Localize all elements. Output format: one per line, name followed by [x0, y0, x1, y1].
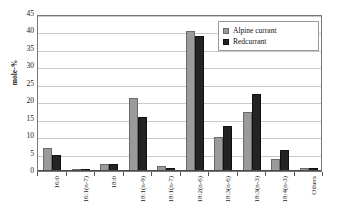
x-axis-tick	[322, 172, 323, 176]
bar	[243, 112, 252, 171]
bar	[223, 126, 232, 171]
bar	[43, 148, 52, 171]
legend: Alpine currant Redcurrant	[218, 21, 319, 51]
y-axis-tick-label: 15	[27, 115, 35, 123]
bar-group	[181, 16, 210, 171]
y-axis-tick-label: 10	[27, 132, 35, 140]
y-axis-tick-label: 0	[30, 167, 34, 175]
x-axis-category-label: 18:1(n-7)	[168, 176, 175, 202]
bar	[280, 150, 289, 171]
legend-swatch-icon	[223, 39, 229, 45]
bar	[129, 98, 138, 171]
x-axis-category-labels: 16:016:1(n-7)18:018:1(n-9)18:1(n-7)18:2(…	[37, 176, 322, 218]
bar	[186, 31, 195, 171]
bar-group	[124, 16, 153, 171]
x-axis-line	[38, 170, 321, 171]
legend-swatch-icon	[223, 28, 229, 34]
x-axis-category-label: 18:4(n-3)	[282, 176, 289, 202]
legend-item-label: Alpine currant	[233, 26, 277, 35]
bar	[195, 36, 204, 171]
bar	[214, 137, 223, 171]
x-axis-category-label: 18:0	[111, 176, 118, 188]
y-axis-tick-label: 35	[27, 45, 35, 53]
legend-item-0: Alpine currant	[223, 25, 314, 36]
y-axis-tick-label: 20	[27, 97, 35, 105]
legend-item-1: Redcurrant	[223, 36, 314, 47]
bar-group	[38, 16, 67, 171]
x-axis-category-label: 18:2(n-6)	[197, 176, 204, 202]
x-axis-category-label: 16:0	[54, 176, 61, 188]
bar-group	[152, 16, 181, 171]
y-axis-tick-label: 45	[27, 10, 35, 18]
legend-item-label: Redcurrant	[233, 37, 266, 46]
y-axis-tick-label: 25	[27, 80, 35, 88]
x-axis-category-label: Others	[311, 176, 318, 195]
bar	[52, 155, 61, 171]
bar-group	[95, 16, 124, 171]
x-axis-category-label: 18:3(n-3)	[254, 176, 261, 202]
x-axis-category-label: 16:1(n-7)	[83, 176, 90, 202]
bar	[138, 117, 147, 171]
x-axis-category-label: 18:1(n-9)	[140, 176, 147, 202]
y-axis-tick-label: 40	[27, 28, 35, 36]
y-axis-tick-labels: 051015202530354045	[16, 14, 34, 172]
bar-group	[67, 16, 96, 171]
bar	[252, 94, 261, 171]
y-axis-tick-label: 5	[30, 150, 34, 158]
y-axis-tick-label: 30	[27, 63, 35, 71]
bar-chart: mole-% 051015202530354045 16:016:1(n-7)1…	[0, 0, 340, 218]
x-axis-category-label: 18:3(n-6)	[225, 176, 232, 202]
